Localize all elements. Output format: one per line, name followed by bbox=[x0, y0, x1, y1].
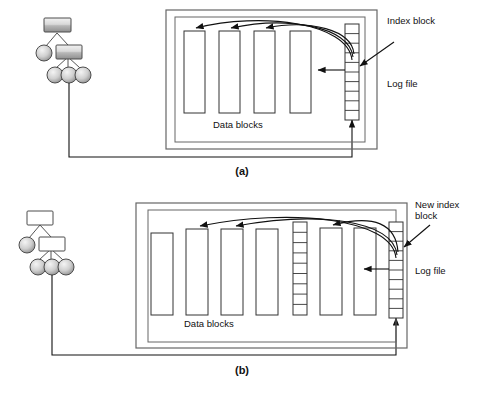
panel-b-data-block bbox=[221, 229, 243, 315]
panel-b-data-block bbox=[256, 229, 278, 315]
panel-b-index-label-leader bbox=[404, 225, 430, 247]
panel-a-log-file-label: Log file bbox=[387, 78, 418, 89]
panel-a bbox=[36, 10, 394, 157]
panel-b-data-block bbox=[354, 228, 376, 315]
panel-a-data-blocks-label: Data blocks bbox=[213, 119, 263, 130]
panel-a-data-block bbox=[184, 31, 205, 113]
tree-node-rect-l2 bbox=[39, 237, 65, 251]
panel-a-index-block bbox=[345, 24, 359, 120]
tree-root-node bbox=[27, 211, 53, 225]
panel-b-log-file-label: Log file bbox=[415, 265, 446, 276]
panel-b-old-index-block bbox=[293, 222, 307, 315]
panel-b-data-blocks-label: Data blocks bbox=[184, 318, 234, 329]
tree-leaf-3 bbox=[75, 67, 91, 83]
tree-node-rect-l2 bbox=[56, 45, 82, 59]
panel-a-data-block bbox=[219, 31, 240, 113]
panel-a-data-block bbox=[290, 31, 311, 113]
panel-b-tree bbox=[19, 211, 74, 275]
tree-leaf-3 bbox=[58, 259, 74, 275]
panel-b bbox=[19, 203, 430, 355]
tree-node-circle-l2 bbox=[19, 237, 35, 253]
tree-node-circle-l2 bbox=[36, 45, 52, 61]
panel-b-caption: (b) bbox=[212, 364, 272, 376]
panel-a-index-block-label: Index block bbox=[387, 15, 435, 26]
panel-a-tree bbox=[36, 18, 91, 83]
panel-b-new-index-block-label: New index block bbox=[415, 199, 479, 221]
panel-b-data-block bbox=[151, 233, 173, 315]
panel-b-data-block bbox=[320, 228, 342, 315]
panel-a-caption: (a) bbox=[212, 165, 272, 177]
panel-b-new-index-block bbox=[389, 222, 403, 318]
tree-root-node bbox=[44, 18, 71, 32]
panel-a-data-block bbox=[254, 31, 275, 113]
log-structured-filesystem-diagram bbox=[0, 0, 492, 394]
panel-b-data-block bbox=[186, 229, 208, 315]
